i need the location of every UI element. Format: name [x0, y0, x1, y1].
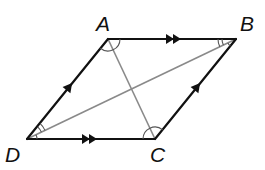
angle-arc-d-double — [40, 124, 45, 131]
double-arrow-icon — [82, 134, 97, 144]
angle-arc-b-double — [218, 39, 220, 47]
double-arrow-icon — [166, 34, 181, 44]
angle-arc-b-small — [228, 43, 230, 46]
diagonal-bd — [27, 39, 236, 139]
vertex-label-b: B — [240, 12, 254, 35]
vertex-label-a: A — [94, 12, 110, 35]
vertex-label-d: D — [5, 143, 20, 166]
vertex-label-c: C — [150, 143, 166, 166]
angle-arc-d-double — [38, 127, 42, 132]
parallelogram-diagram: A B C D — [0, 0, 265, 170]
